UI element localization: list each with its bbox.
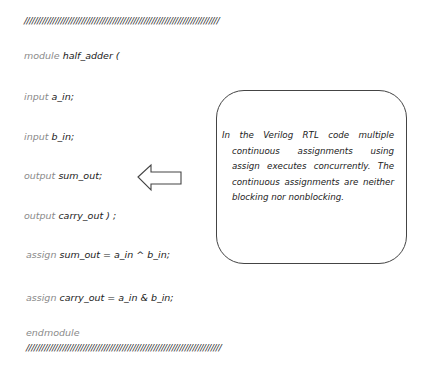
expression: carry_out = a_in & b_in; <box>59 292 173 303</box>
keyword: endmodule <box>26 327 80 338</box>
keyword: input <box>24 91 48 102</box>
callout-text: In the Verilog RTL code multiple continu… <box>232 128 394 206</box>
input-b-line: input b_in; <box>24 131 74 142</box>
input-a-line: input a_in; <box>24 91 74 102</box>
assign-sum-line: assign sum_out = a_in ^ b_in; <box>26 249 170 260</box>
keyword: module <box>24 50 60 61</box>
keyword: output <box>24 170 55 181</box>
output-carry-line: output carry_out ) ; <box>24 210 116 221</box>
footer-rule: ////////////////////////////////////////… <box>26 342 221 353</box>
keyword: assign <box>26 249 56 260</box>
left-arrow-icon <box>136 163 186 193</box>
identifier: carry_out ) ; <box>58 210 116 221</box>
callout-first-line: In the Verilog RTL code multiple <box>222 128 394 144</box>
output-sum-line: output sum_out; <box>24 170 102 181</box>
module-declaration: module half_adder ( <box>24 50 120 61</box>
expression: sum_out = a_in ^ b_in; <box>59 249 169 260</box>
identifier: sum_out; <box>58 170 102 181</box>
identifier: a_in; <box>51 91 73 102</box>
assign-carry-line: assign carry_out = a_in & b_in; <box>26 292 174 303</box>
header-rule: ////////////////////////////////////////… <box>24 15 219 26</box>
keyword: assign <box>26 292 56 303</box>
module-name: half_adder ( <box>63 50 120 61</box>
endmodule-line: endmodule <box>26 327 80 338</box>
identifier: b_in; <box>51 131 74 142</box>
callout-body: continuous assignments using assign exec… <box>232 146 394 203</box>
keyword: output <box>24 210 55 221</box>
keyword: input <box>24 131 48 142</box>
